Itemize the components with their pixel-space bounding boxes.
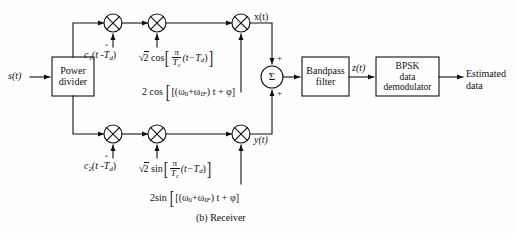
carrier2-radical-group: √2 <box>139 164 149 174</box>
wire-divider-lower <box>73 96 104 134</box>
carrier2-inner-close: ) <box>203 163 206 174</box>
power-divider-line2: divider <box>59 76 87 87</box>
carrier2-radicand: 2 <box>144 162 149 174</box>
carrier1-radical-group: √2 <box>139 53 149 63</box>
code1-hat-accent: ˆ <box>105 44 108 53</box>
lo-lower-plus: +ω <box>192 192 204 203</box>
carrier2-bracket-close: ] <box>207 160 211 179</box>
label-code1-despread: c1(t -ˆTd) <box>84 50 116 62</box>
code2-hat-accent: ˆ <box>105 155 108 164</box>
lo-upper-bracket-open: [ <box>166 83 170 102</box>
carrier2-bracket-open: [ <box>164 160 168 179</box>
carrier2-den-sub: c <box>176 172 179 179</box>
code2-hat-group: ˆT <box>104 161 110 171</box>
lo-lower-mid: ) t + φ] <box>211 192 239 203</box>
lo-lower-coef: 2sin <box>150 192 167 203</box>
carrier2-inner: (t−T <box>181 163 199 174</box>
summer-symbol: Σ <box>262 70 282 82</box>
lo-upper-plus: +ω <box>188 86 200 97</box>
lo-upper-open: [(ω <box>172 86 185 97</box>
label-lo-lower: 2sin [[(ω0+ωIF) t + φ] <box>150 189 239 208</box>
carrier1-function: cos <box>151 52 164 63</box>
lo-lower-open: [(ω <box>175 192 188 203</box>
carrier1-fraction: πTc <box>172 48 182 69</box>
wire-y-to-summer <box>250 90 272 134</box>
label-input-signal: s(t) <box>8 71 21 81</box>
carrier1-radicand: 2 <box>144 51 149 63</box>
lo-upper-mid: ) t + φ] <box>207 86 235 97</box>
summer-plus-top: + <box>277 54 282 63</box>
carrier1-frac-den: Tc <box>172 57 182 68</box>
power-divider-line1: Power <box>60 65 86 76</box>
figure-caption: (b) Receiver <box>196 212 246 223</box>
label-lo-upper: 2 cos [[(ω0+ωIF) t + φ] <box>142 83 235 102</box>
estimated-data-line2: data <box>466 80 483 91</box>
code2-arg-close: ) <box>113 160 116 171</box>
carrier2-function: sin <box>151 163 163 174</box>
code1-hat-group: ˆT <box>104 50 110 60</box>
summer-plus-bottom: + <box>277 89 282 98</box>
label-signal-y: y(t) <box>254 135 268 145</box>
bpsk-line3: demodulator <box>383 82 431 92</box>
bpsk-line1: BPSK <box>396 61 420 71</box>
label-signal-x: x(t) <box>254 12 268 22</box>
wire-x-to-summer <box>250 23 272 64</box>
receiver-block-diagram: s(t) Power divider c1(t -ˆTd) √2 cos[πTc… <box>0 0 515 233</box>
bandpass-line2: filter <box>316 76 335 87</box>
label-estimated-data: Estimated data <box>466 68 506 92</box>
block-label-bpsk-demodulator: BPSK data demodulator <box>376 61 439 93</box>
code1-arg-close: ) <box>113 49 116 60</box>
bpsk-line2: data <box>400 72 416 82</box>
bandpass-line1: Bandpass <box>306 65 344 76</box>
carrier1-bracket-open: [ <box>165 49 169 68</box>
carrier1-inner: (t−T <box>182 52 200 63</box>
label-carrier2-chip: √2 sin[πTc(t−Td)] <box>139 159 212 180</box>
lo-upper-coef: 2 cos <box>142 86 163 97</box>
code1-arg-open: (t - <box>92 49 104 60</box>
carrier1-bracket-close: ] <box>208 49 212 68</box>
label-code2-despread: c2(t -ˆTd) <box>84 161 116 173</box>
estimated-data-line1: Estimated <box>466 68 506 79</box>
lo-lower-bracket-open: [ <box>170 189 174 208</box>
carrier1-den-sub: c <box>178 61 181 68</box>
carrier2-frac-den: Tc <box>170 168 180 179</box>
carrier2-frac-num: π <box>170 159 180 168</box>
carrier2-fraction: πTc <box>170 159 180 180</box>
carrier1-frac-num: π <box>172 48 182 57</box>
block-label-power-divider: Power divider <box>52 65 94 87</box>
block-label-bandpass-filter: Bandpass filter <box>302 65 349 87</box>
code2-arg-open: (t - <box>92 160 104 171</box>
diagram-canvas <box>0 0 515 233</box>
label-carrier1-chip: √2 cos[πTc(t−Td)] <box>139 48 214 69</box>
label-signal-z: z(t) <box>352 63 365 73</box>
carrier1-inner-close: ) <box>204 52 207 63</box>
